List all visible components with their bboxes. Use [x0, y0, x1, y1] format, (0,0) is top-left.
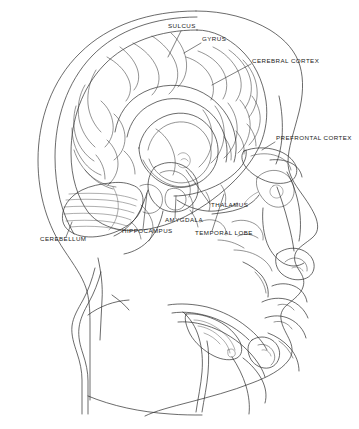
label-gyrus: GYRUS: [202, 35, 226, 42]
gyrus-line-3: [171, 33, 187, 87]
sulcus-line-3: [186, 57, 213, 100]
prefrontal-sulcus-1: [238, 100, 250, 153]
occipital-gyrus-5: [107, 140, 118, 185]
anatomy-illustration: SULCUSGYRUSCEREBRAL CORTEXPREFRONTAL COR…: [0, 0, 359, 429]
forehead-inner-line: [276, 96, 282, 164]
neck-group: [72, 258, 209, 415]
occipital-sulcus-4: [114, 114, 125, 160]
chin-outline: [268, 333, 299, 371]
leader-line-prefrontal-cortex: [262, 142, 275, 150]
occipital-gyrus-1: [88, 70, 101, 132]
hyoid-structure: [248, 337, 280, 368]
occipital-gyrus-6: [96, 155, 105, 179]
oral-cavity-mark: [228, 349, 236, 357]
shoulder-line: [88, 300, 129, 315]
cerebellum-folium-3: [64, 206, 134, 213]
gyrus-line-5: [229, 50, 251, 108]
hard-palate-upper: [168, 304, 267, 350]
submandibular-detail-2: [262, 350, 271, 356]
prefrontal-sulcus-2: [211, 106, 224, 163]
upper-lip-line: [272, 284, 307, 302]
nostril-outline: [276, 248, 315, 280]
orbital-socket-inner: [251, 154, 291, 170]
gyrus-line-2: [133, 43, 159, 95]
label-amygdala: AMYGDALA: [165, 216, 203, 223]
label-thalamus: THALAMUS: [211, 201, 248, 208]
cerebellum-folium-6: [70, 226, 122, 231]
nasal-septum: [277, 187, 294, 251]
throat-structure-outer: [183, 312, 202, 412]
gyrus-line-4: [198, 51, 227, 99]
gyrus-line-1: [120, 47, 139, 90]
interventricular-mark-1: [178, 153, 190, 168]
label-hippocampus: HIPPOCAMPUS: [122, 227, 173, 234]
label-temporal-lobe: TEMPORAL LOBE: [195, 229, 253, 236]
prefrontal-sulcus-3: [247, 124, 256, 146]
throat-structure-inner: [202, 341, 209, 412]
pons-line: [141, 205, 153, 241]
lip-detail-1: [278, 304, 294, 310]
occipital-sulcus-1: [78, 85, 95, 147]
occipital-sulcus-3: [85, 170, 113, 189]
spine-column: [98, 258, 102, 340]
nasolabial-line: [255, 272, 266, 293]
brain-anatomy-diagram: SULCUSGYRUSCEREBRAL CORTEXPREFRONTAL COR…: [0, 0, 359, 429]
occipital-sulcus-5: [124, 151, 135, 174]
cerebellum-folium-2: [66, 199, 136, 206]
prefrontal-gyrus-3: [199, 110, 212, 167]
sulcus-line-4: [213, 47, 241, 101]
shoulder-slope: [88, 396, 202, 415]
sulcus-line-1: [107, 57, 130, 101]
jaw-lower-contour: [243, 358, 266, 403]
tongue-outline: [185, 314, 241, 360]
corpus-callosum-inner: [148, 122, 211, 183]
leader-line-cerebral-cortex: [212, 64, 251, 85]
interventricular-mark-2: [181, 159, 188, 161]
leader-line-amygdala: [175, 196, 176, 218]
occipital-gyrus-3: [74, 150, 116, 187]
septum-line: [156, 129, 175, 175]
nasal-bridge-line: [287, 172, 301, 241]
prefrontal-gyrus-1: [249, 96, 260, 145]
brainstem-outline: [114, 190, 163, 254]
prefrontal-gyrus-4: [236, 131, 244, 154]
leader-line-thalamus: [186, 170, 210, 204]
leader-line-sulcus: [168, 31, 181, 57]
label-cerebral-cortex: CEREBRAL CORTEX: [252, 57, 319, 64]
prefrontal-sulcus-4: [224, 137, 231, 160]
label-sulcus: SULCUS: [168, 22, 196, 29]
lower-lip-line: [265, 316, 306, 338]
cerebellum-folium-5: [66, 220, 127, 226]
nasal-cavity-outline: [263, 208, 304, 266]
leader-line-gyrus: [184, 43, 201, 53]
corpus-callosum-outer: [139, 113, 218, 187]
mandible-line: [178, 322, 265, 377]
label-cerebellum: CEREBELLUM: [40, 235, 86, 242]
face-group: [168, 96, 314, 414]
cheek-contour: [243, 262, 268, 297]
mouth-line: [262, 298, 308, 318]
zygomatic-line: [218, 240, 244, 248]
pupil-mark: [270, 185, 283, 198]
cerebellum-folium-4: [64, 213, 131, 220]
label-prefrontal-cortex: PREFRONTAL CORTEX: [276, 134, 352, 141]
neck-front-line: [72, 268, 95, 414]
submandibular-detail-1: [258, 344, 275, 365]
eyeball-outline: [256, 170, 294, 207]
neck-front-under-chin: [232, 357, 249, 414]
occipital-sulcus-2: [72, 128, 101, 175]
